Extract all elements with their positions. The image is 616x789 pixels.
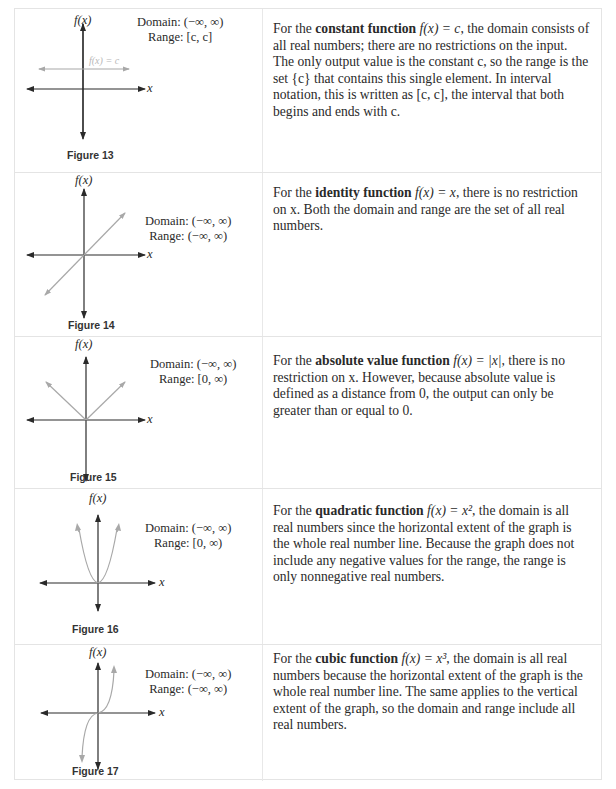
description-cell: For the quadratic function f(x) = x², th… (263, 489, 601, 644)
domain-range: Domain: (−∞, ∞) Range: [c, c] (137, 15, 223, 45)
description-cell: For the absolute value function f(x) = |… (263, 337, 601, 488)
formula: f(x) = x (412, 185, 456, 200)
graph-cell: f(x) x Domain: (−∞, ∞) Range: [0, ∞) Fig… (15, 337, 263, 488)
desc-pre: For the (273, 21, 315, 36)
domain-text: Domain: (−∞, ∞) (137, 15, 223, 30)
figure-caption: Figure 15 (70, 471, 117, 483)
domain-text: Domain: (−∞, ∞) (145, 214, 231, 229)
domain-range: Domain: (−∞, ∞) Range: (−∞, ∞) (145, 214, 231, 244)
domain-range: Domain: (−∞, ∞) Range: [0, ∞) (145, 521, 231, 551)
graph-cell: f(x) x Domain: (−∞, ∞) Range: [0, ∞) Fig… (15, 489, 263, 644)
description-cell: For the constant function f(x) = c, the … (263, 9, 601, 172)
figure-caption: Figure 14 (68, 319, 115, 331)
range-text: Range: (−∞, ∞) (145, 229, 231, 244)
x-axis-label: x (147, 247, 153, 262)
desc-pre: For the (273, 503, 315, 518)
range-text: Range: [0, ∞) (150, 372, 236, 387)
x-axis-label: x (159, 705, 165, 720)
desc-pre: For the (273, 185, 315, 200)
formula: f(x) = x² (424, 503, 472, 518)
y-axis-label: f(x) (75, 173, 92, 188)
row-constant-function: f(x) f(x) = c x Domain: (−∞, ∞) Range: [… (15, 9, 601, 173)
formula: f(x) = c (416, 21, 460, 36)
range-text: Range: (−∞, ∞) (145, 682, 231, 697)
x-axis-label: x (147, 81, 153, 96)
formula: f(x) = x³ (398, 651, 446, 666)
curve-label: f(x) = c (89, 55, 119, 66)
term-absolute-value-function: absolute value function (315, 353, 449, 368)
x-axis-label: x (159, 575, 165, 590)
term-constant-function: constant function (315, 21, 416, 36)
x-axis-label: x (147, 412, 153, 427)
formula: f(x) = |x| (450, 353, 502, 368)
y-axis-label: f(x) (74, 13, 91, 28)
domain-text: Domain: (−∞, ∞) (145, 667, 231, 682)
quadratic-function-graph (15, 489, 263, 645)
desc-pre: For the (273, 651, 315, 666)
identity-function-graph (15, 173, 263, 337)
graph-cell: f(x) f(x) = c x Domain: (−∞, ∞) Range: [… (15, 9, 263, 172)
domain-text: Domain: (−∞, ∞) (145, 521, 231, 536)
range-text: Range: [c, c] (137, 30, 223, 45)
cubic-function-graph (15, 645, 263, 781)
y-axis-label: f(x) (89, 491, 106, 506)
description-text: For the absolute value function f(x) = |… (273, 353, 591, 419)
graph-cell: f(x) x Domain: (−∞, ∞) Range: (−∞, ∞) Fi… (15, 645, 263, 781)
domain-range: Domain: (−∞, ∞) Range: (−∞, ∞) (145, 667, 231, 697)
figure-caption: Figure 16 (72, 623, 119, 635)
term-quadratic-function: quadratic function (315, 503, 423, 518)
row-absolute-value-function: f(x) x Domain: (−∞, ∞) Range: [0, ∞) Fig… (15, 337, 601, 489)
function-table: f(x) f(x) = c x Domain: (−∞, ∞) Range: [… (14, 8, 602, 780)
domain-range: Domain: (−∞, ∞) Range: [0, ∞) (150, 357, 236, 387)
range-text: Range: [0, ∞) (145, 536, 231, 551)
row-cubic-function: f(x) x Domain: (−∞, ∞) Range: (−∞, ∞) Fi… (15, 645, 601, 781)
description-text: For the cubic function f(x) = x³, the do… (273, 651, 591, 734)
description-cell: For the cubic function f(x) = x³, the do… (263, 645, 601, 781)
figure-caption: Figure 17 (72, 765, 119, 777)
row-identity-function: f(x) x Domain: (−∞, ∞) Range: (−∞, ∞) Fi… (15, 173, 601, 337)
description-text: For the constant function f(x) = c, the … (273, 21, 591, 121)
y-axis-label: f(x) (75, 337, 92, 352)
domain-text: Domain: (−∞, ∞) (150, 357, 236, 372)
row-quadratic-function: f(x) x Domain: (−∞, ∞) Range: [0, ∞) Fig… (15, 489, 601, 645)
term-identity-function: identity function (315, 185, 411, 200)
graph-cell: f(x) x Domain: (−∞, ∞) Range: (−∞, ∞) Fi… (15, 173, 263, 336)
figure-caption: Figure 13 (67, 149, 114, 161)
term-cubic-function: cubic function (315, 651, 398, 666)
description-text: For the quadratic function f(x) = x², th… (273, 503, 591, 586)
desc-pre: For the (273, 353, 315, 368)
description-text: For the identity function f(x) = x, ther… (273, 185, 591, 235)
y-axis-label: f(x) (89, 645, 106, 660)
description-cell: For the identity function f(x) = x, ther… (263, 173, 601, 336)
